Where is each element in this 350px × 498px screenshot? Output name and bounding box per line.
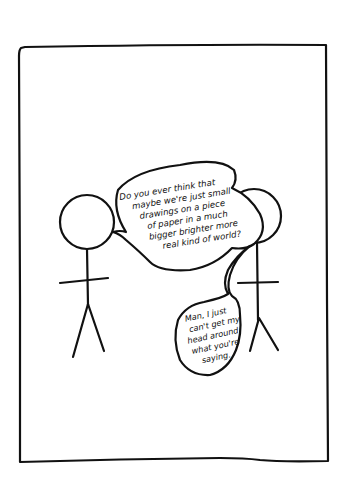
right-figure-legs: [250, 318, 278, 351]
right-figure-arms: [238, 282, 278, 283]
left-figure-legs: [73, 304, 104, 357]
left-figure-head: [60, 195, 114, 249]
comic-panel: Do you ever think that maybe we're just …: [0, 0, 350, 498]
left-stick-figure: [60, 195, 114, 357]
left-figure-body: [87, 249, 88, 305]
left-figure-arms: [60, 278, 108, 283]
